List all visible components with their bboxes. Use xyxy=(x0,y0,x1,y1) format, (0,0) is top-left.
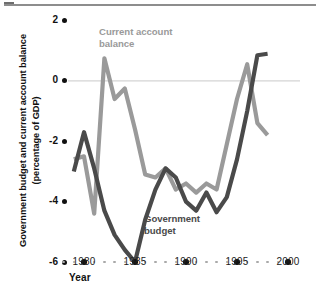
current-account-label-line2: balance xyxy=(99,38,134,49)
government-budget-label-line1: Government xyxy=(144,213,200,224)
chart-figure: Government budget and current account ba… xyxy=(0,0,320,298)
x-tick-label: 1980 xyxy=(64,256,104,267)
x-axis-title: Year xyxy=(69,272,91,283)
y-tick-label: -4 xyxy=(36,195,58,206)
y-tick-dot xyxy=(62,18,67,23)
y-tick-dot xyxy=(62,139,67,144)
y-tick-label: -6 xyxy=(36,256,58,267)
y-tick-label: -2 xyxy=(36,135,58,146)
current-account-label-line1: Current account xyxy=(99,26,172,37)
x-tick-label: 1985 xyxy=(115,256,155,267)
y-tick-label: 0 xyxy=(36,74,58,85)
series-label-government-budget: Government budget xyxy=(144,213,200,237)
x-tick-label: 2000 xyxy=(268,256,308,267)
x-tick-label: 1990 xyxy=(166,256,206,267)
x-tick-label: 1995 xyxy=(217,256,257,267)
series-label-current-account: Current account balance xyxy=(99,26,172,50)
government-budget-label-line2: budget xyxy=(144,225,176,236)
y-tick-label: 2 xyxy=(36,14,58,25)
